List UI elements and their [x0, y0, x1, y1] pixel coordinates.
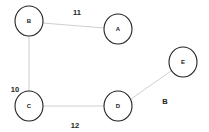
node-d: D — [104, 91, 132, 121]
node-b-label: B — [27, 18, 32, 24]
node-c: C — [15, 91, 43, 121]
node-e: E — [169, 47, 197, 77]
node-a-label: A — [116, 26, 121, 32]
edge-b-a — [43, 23, 104, 28]
edge-label-b-c: 10 — [11, 85, 19, 94]
node-b: B — [15, 6, 43, 36]
edge-label-b-a: 11 — [73, 8, 81, 17]
node-c-label: C — [27, 103, 32, 109]
node-d-label: D — [116, 103, 121, 109]
edges — [29, 23, 171, 106]
nodes: B A E C D — [15, 6, 197, 121]
graph-diagram: 11 10 12 B B A E C D — [0, 0, 209, 132]
edge-d-e — [131, 71, 171, 99]
edge-label-d-e: B — [162, 97, 168, 106]
node-e-label: E — [181, 59, 185, 65]
edge-label-c-d: 12 — [71, 121, 79, 130]
node-a: A — [104, 14, 132, 44]
